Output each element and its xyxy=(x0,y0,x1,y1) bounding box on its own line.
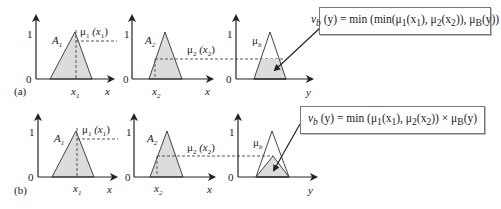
mu2-label: μ2 (x2) xyxy=(187,141,215,156)
mu-b-label: μb xyxy=(252,34,262,49)
x1-label: x1 xyxy=(72,182,81,197)
x1-label: x1 xyxy=(70,85,79,100)
axis-one-label: 1 xyxy=(126,126,132,138)
axis-one-label: 1 xyxy=(229,126,235,138)
axis-zero-label: 0 xyxy=(28,171,34,183)
x2-label: x2 xyxy=(153,182,163,197)
panel-label-a: (a) xyxy=(14,85,26,97)
axis-x-label: x xyxy=(106,183,112,195)
panel-label-b: (b) xyxy=(14,184,27,196)
axis-x-label: x xyxy=(206,183,212,195)
axis-zero-label: 0 xyxy=(125,171,131,183)
axis-one-label: 1 xyxy=(124,28,130,40)
axis-zero-label: 0 xyxy=(228,171,234,183)
formula-a-text: vb (y) = min (min(μ1(x1), μ2(x2)), μB(y)… xyxy=(311,13,499,28)
axis-x-label: x xyxy=(104,85,110,97)
axis-one-label: 1 xyxy=(29,126,35,138)
formula-box-a: vb (y) = min (min(μ1(x1), μ2(x2)), μB(y)… xyxy=(319,7,491,35)
mu2-label: μ2 (x2) xyxy=(187,43,215,58)
plot-output-row-a xyxy=(236,16,320,79)
formula-box-b: vb (y) = min (μ1(x1), μ2(x2)) × μB(y) xyxy=(300,106,485,134)
axis-y-label: y xyxy=(305,86,311,98)
set-a1-label: A1 xyxy=(51,34,62,49)
axis-one-label: 1 xyxy=(27,28,33,40)
x2-label: x2 xyxy=(151,85,161,100)
mu1-label: μ1 (x1) xyxy=(82,123,110,138)
axis-zero-label: 0 xyxy=(123,73,129,85)
axis-x-label: x xyxy=(204,85,210,97)
formula-b-text: vb (y) = min (μ1(x1), μ2(x2)) × μB(y) xyxy=(308,112,477,127)
mu1-label: μ1 (x1) xyxy=(80,25,108,40)
axis-one-label: 1 xyxy=(227,28,233,40)
axis-zero-label: 0 xyxy=(226,73,232,85)
set-a2-label: A2 xyxy=(144,34,156,49)
axis-y-label: y xyxy=(307,184,313,196)
set-a1-label: A1 xyxy=(53,132,64,147)
axis-zero-label: 0 xyxy=(26,73,32,85)
set-a2-label: A2 xyxy=(146,132,158,147)
mu-b-label: μb xyxy=(253,136,263,151)
